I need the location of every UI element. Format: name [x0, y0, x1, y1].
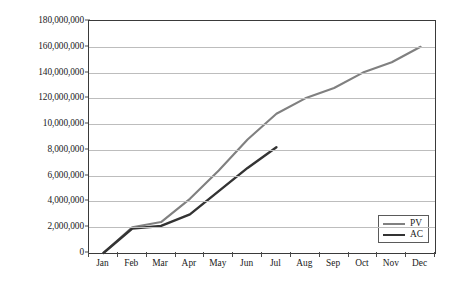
x-tick-mark	[348, 252, 349, 257]
x-tick-mark	[232, 252, 233, 257]
x-tick-label: Jul	[270, 258, 281, 268]
x-tick-mark	[434, 252, 435, 257]
x-tick-mark	[146, 252, 147, 257]
x-tick-label: Apr	[182, 258, 197, 268]
x-tick-label: Oct	[355, 258, 369, 268]
x-tick-label: Jun	[240, 258, 253, 268]
x-tick-mark	[261, 252, 262, 257]
x-tick-mark	[117, 252, 118, 257]
x-tick-mark	[175, 252, 176, 257]
x-tick-mark	[319, 252, 320, 257]
x-tick-label: Nov	[383, 258, 399, 268]
x-tick-label: Mar	[152, 258, 168, 268]
x-tick-label: May	[209, 258, 226, 268]
x-tick-mark	[290, 252, 291, 257]
x-tick-label: Feb	[124, 258, 138, 268]
x-tick-label: Sep	[326, 258, 340, 268]
x-tick-mark	[88, 252, 89, 257]
x-tick-mark	[203, 252, 204, 257]
line-chart: 180,000,000160,000,000140,000,000120,000…	[0, 0, 456, 286]
x-axis: JanFebMarAprMayJunJulAugSepOctNovDec	[0, 0, 456, 286]
x-tick-mark	[376, 252, 377, 257]
x-tick-mark	[405, 252, 406, 257]
x-tick-label: Dec	[412, 258, 427, 268]
x-tick-label: Jan	[96, 258, 109, 268]
x-tick-label: Aug	[296, 258, 312, 268]
